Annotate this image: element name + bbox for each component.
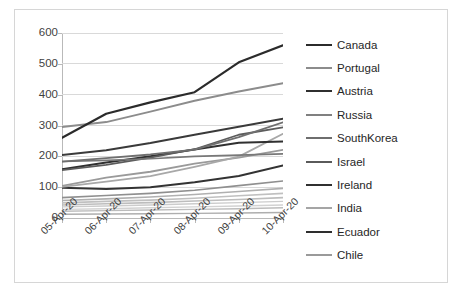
legend-swatch-icon (306, 114, 332, 116)
legend-swatch-icon (306, 231, 332, 233)
legend-item-chile[interactable]: Chile (306, 244, 446, 267)
legend-swatch-icon (306, 90, 332, 92)
legend-label: SouthKorea (337, 132, 398, 144)
legend-item-israel[interactable]: Israel (306, 150, 446, 173)
legend-label: India (337, 202, 362, 214)
legend-item-ecuador[interactable]: Ecuador (306, 220, 446, 243)
x-tick-label: 05-Apr-20 (38, 195, 80, 237)
x-tick-label: 07-Apr-20 (126, 195, 168, 237)
legend-label: Canada (337, 39, 377, 51)
legend-label: Ecuador (337, 226, 380, 238)
x-tick-label: 08-Apr-20 (171, 195, 213, 237)
chart-legend: CanadaPortugalAustriaRussiaSouthKoreaIsr… (306, 33, 446, 267)
legend-item-southkorea[interactable]: SouthKorea (306, 127, 446, 150)
legend-swatch-icon (306, 161, 332, 163)
legend-item-india[interactable]: India (306, 197, 446, 220)
legend-label: Ireland (337, 179, 372, 191)
legend-item-russia[interactable]: Russia (306, 103, 446, 126)
legend-swatch-icon (306, 184, 332, 186)
legend-swatch-icon (306, 67, 332, 69)
x-tick-label: 10-Apr-20 (259, 195, 301, 237)
legend-item-portugal[interactable]: Portugal (306, 56, 446, 79)
legend-item-ireland[interactable]: Ireland (306, 173, 446, 196)
legend-item-canada[interactable]: Canada (306, 33, 446, 56)
legend-label: Israel (337, 156, 365, 168)
chart-screenshot: 0100200300400500600 05-Apr-2006-Apr-2007… (0, 0, 463, 297)
legend-label: Chile (337, 249, 363, 261)
x-tick-label: 06-Apr-20 (82, 195, 124, 237)
legend-swatch-icon (306, 254, 332, 256)
legend-swatch-icon (306, 137, 332, 139)
legend-item-austria[interactable]: Austria (306, 80, 446, 103)
legend-label: Russia (337, 109, 372, 121)
x-tick-label: 09-Apr-20 (215, 195, 257, 237)
legend-swatch-icon (306, 44, 332, 46)
legend-label: Portugal (337, 62, 380, 74)
legend-label: Austria (337, 85, 373, 97)
legend-swatch-icon (306, 207, 332, 209)
